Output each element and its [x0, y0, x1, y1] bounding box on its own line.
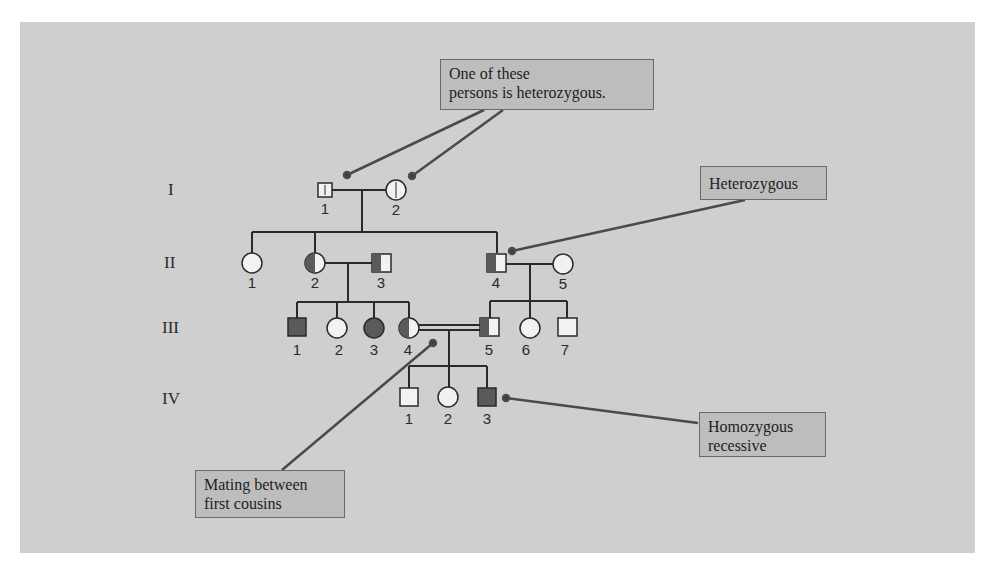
- individual-II-4: [487, 254, 506, 272]
- generation-label-II: II: [164, 253, 175, 273]
- individual-I-1: [318, 183, 332, 197]
- number-IV-3: 3: [477, 410, 497, 427]
- number-II-1: 1: [242, 274, 262, 291]
- individual-III-5: [480, 318, 499, 336]
- number-II-5: 5: [553, 275, 573, 292]
- number-III-6: 6: [516, 341, 536, 358]
- generation-label-I: I: [168, 180, 174, 200]
- individual-II-2: [305, 253, 325, 273]
- generation-label-III: III: [162, 318, 179, 338]
- callout-mating-first-cousins: Mating between first cousins: [195, 470, 345, 518]
- individual-III-6: [520, 318, 540, 338]
- individual-III-7: [558, 318, 577, 336]
- individual-III-3: [364, 318, 384, 338]
- number-IV-1: 1: [399, 410, 419, 427]
- individual-III-1: [288, 318, 306, 336]
- individual-II-3: [372, 254, 391, 272]
- individual-IV-3: [478, 388, 496, 406]
- number-II-2: 2: [305, 274, 325, 291]
- individual-III-4: [399, 318, 419, 338]
- leader-line-I2: [412, 110, 503, 176]
- leader-line-I1: [347, 110, 484, 175]
- individual-II-5: [553, 254, 573, 274]
- number-IV-2: 2: [438, 410, 458, 427]
- number-III-5: 5: [479, 341, 499, 358]
- number-III-1: 1: [287, 341, 307, 358]
- callout-homozygous-recessive: Homozygous recessive: [699, 412, 826, 457]
- individual-I-2: [386, 180, 406, 200]
- individual-II-1: [242, 253, 262, 273]
- individual-IV-1: [400, 388, 418, 406]
- number-I-1: 1: [315, 200, 335, 217]
- individual-III-2: [327, 318, 347, 338]
- callout-one-of-these-heterozygous: One of these persons is heterozygous.: [440, 59, 654, 110]
- number-III-7: 7: [555, 341, 575, 358]
- number-III-3: 3: [364, 341, 384, 358]
- number-II-3: 3: [371, 274, 391, 291]
- number-I-2: 2: [386, 201, 406, 218]
- generation-label-IV: IV: [162, 389, 180, 409]
- callout-heterozygous: Heterozygous: [700, 166, 827, 200]
- number-II-4: 4: [486, 274, 506, 291]
- individual-IV-2: [438, 387, 458, 407]
- leader-line-homozygous: [506, 398, 698, 423]
- number-III-4: 4: [398, 341, 418, 358]
- number-III-2: 2: [329, 341, 349, 358]
- leader-line-heterozygous: [512, 200, 745, 251]
